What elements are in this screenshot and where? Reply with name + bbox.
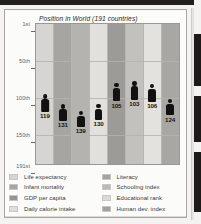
person-icon <box>148 84 156 102</box>
legend-item: Human dev. index <box>101 204 186 213</box>
legend-swatch <box>101 205 112 213</box>
y-axis-label-2: 100th <box>16 95 30 101</box>
legend-item-label: Educational rank <box>117 195 163 201</box>
person-body <box>59 109 67 120</box>
person-icon <box>131 81 139 99</box>
legend-item: Infant mortality <box>8 183 97 192</box>
person-head <box>43 94 47 98</box>
legend-swatch <box>8 173 19 181</box>
legend-item: Life expectancy <box>8 172 97 181</box>
data-marker: 105 <box>111 83 121 109</box>
legend-swatch <box>8 183 19 191</box>
person-head <box>78 111 82 115</box>
data-value-label: 131 <box>58 121 68 128</box>
data-marker: 106 <box>147 84 157 110</box>
data-value-label: 124 <box>165 116 175 123</box>
legend-item-label: Literacy <box>117 174 138 180</box>
data-value-label: 105 <box>111 102 121 109</box>
data-value-label: 119 <box>40 112 50 119</box>
figure-card: Position in World (191 countries) 1st 50… <box>4 9 187 218</box>
data-marker: 119 <box>40 94 50 119</box>
page-top-band-cap <box>194 0 201 5</box>
card-bottom-rule <box>5 216 186 217</box>
page-edge-rail <box>191 8 194 220</box>
y-axis-label-3: 150th <box>16 132 30 138</box>
page-edge-strip-top <box>194 34 201 86</box>
legend-swatch <box>101 183 112 191</box>
plot-area: 119131139130105103106124 <box>35 23 180 165</box>
data-marker: 124 <box>165 99 175 123</box>
person-body <box>131 86 139 99</box>
data-value-label: 139 <box>76 127 86 134</box>
person-body <box>95 109 103 120</box>
legend-swatch <box>8 194 19 202</box>
person-body <box>166 104 174 116</box>
person-head <box>168 99 172 103</box>
page-edge-strip-bottom <box>194 152 201 212</box>
person-head <box>132 81 136 85</box>
data-marker: 103 <box>129 81 139 107</box>
legend-swatch <box>8 205 19 213</box>
y-axis-labels: 1st 50th 100th 150th 191st <box>9 23 35 165</box>
data-value-label: 106 <box>147 102 157 109</box>
legend-item-label: GDP per capita <box>24 195 66 201</box>
person-body <box>113 88 121 101</box>
person-body <box>41 99 49 111</box>
legend-column-left: Life expectancyInfant mortalityGDP per c… <box>8 172 97 216</box>
person-icon <box>166 99 174 116</box>
legend-column-right: LiteracySchooling indexEducational rankH… <box>97 172 186 216</box>
person-body <box>77 116 85 126</box>
legend-swatch <box>101 173 112 181</box>
page-top-band <box>0 0 194 5</box>
legend-item-label: Schooling index <box>117 184 160 190</box>
legend-item: Daily calorie intake <box>8 204 97 213</box>
page-edge-strip-middle <box>194 96 201 142</box>
data-value-label: 103 <box>129 100 139 107</box>
y-axis-label-0: 1st <box>23 21 31 27</box>
person-head <box>150 84 154 88</box>
person-icon <box>41 94 49 111</box>
person-head <box>96 104 100 108</box>
legend-item: GDP per capita <box>8 194 97 203</box>
data-marker: 130 <box>94 104 104 128</box>
legend-item-label: Daily calorie intake <box>24 206 75 212</box>
legend-item: Schooling index <box>101 183 186 192</box>
chart-area: Position in World (191 countries) 1st 50… <box>9 15 183 167</box>
legend-item-label: Life expectancy <box>24 174 66 180</box>
legend-item: Literacy <box>101 172 186 181</box>
person-icon <box>59 104 67 120</box>
data-value-label: 130 <box>94 120 104 127</box>
person-head <box>61 104 65 108</box>
chart-title: Position in World (191 countries) <box>39 15 138 22</box>
legend-item: Educational rank <box>101 194 186 203</box>
person-head <box>114 83 118 87</box>
legend-swatch <box>101 194 112 202</box>
person-icon <box>113 83 121 101</box>
legend-item-label: Infant mortality <box>24 184 64 190</box>
y-axis-label-4: 191st <box>16 163 30 169</box>
data-marker: 139 <box>76 111 86 134</box>
y-axis-label-1: 50th <box>19 58 30 64</box>
person-body <box>148 89 156 102</box>
data-marker: 131 <box>58 104 68 128</box>
legend-item-label: Human dev. index <box>117 206 166 212</box>
legend: Life expectancyInfant mortalityGDP per c… <box>8 172 185 216</box>
person-icon <box>95 104 103 120</box>
page-root: Position in World (191 countries) 1st 50… <box>0 0 201 224</box>
data-markers: 119131139130105103106124 <box>36 24 179 164</box>
person-icon <box>77 111 85 126</box>
